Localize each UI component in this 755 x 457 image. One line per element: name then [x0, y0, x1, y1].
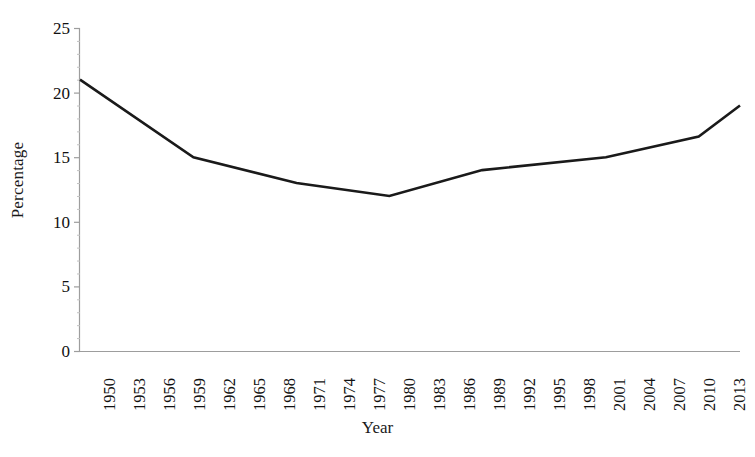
x-axis-tick-label: 1953	[132, 378, 149, 411]
x-axis-tick-label: 1959	[192, 378, 209, 411]
x-axis-tick-label: 2007	[672, 378, 689, 411]
x-axis-tick-labels: 1950195319561959196219651968197119741977…	[0, 0, 755, 457]
x-axis-title: Year	[0, 418, 755, 438]
x-axis-tick-label: 1968	[282, 378, 299, 411]
x-axis-tick-label: 2004	[642, 378, 659, 411]
x-axis-tick-label: 1980	[402, 378, 419, 411]
x-axis-tick-label: 1950	[102, 378, 119, 411]
x-axis-tick-label: 1995	[552, 378, 569, 411]
x-axis-tick-label: 1956	[162, 378, 179, 411]
x-axis-tick-label: 1965	[252, 378, 269, 411]
x-axis-tick-label: 2013	[732, 378, 749, 411]
x-axis-tick-label: 1989	[492, 378, 509, 411]
x-axis-tick-label: 1974	[342, 378, 359, 411]
x-axis-tick-label: 1998	[582, 378, 599, 411]
x-axis-tick-label: 1971	[312, 378, 329, 411]
x-axis-tick-label: 1977	[372, 378, 389, 411]
x-axis-tick-label: 1962	[222, 378, 239, 411]
x-axis-tick-label: 1986	[462, 378, 479, 411]
x-axis-tick-label: 1983	[432, 378, 449, 411]
x-axis-tick-label: 2010	[702, 378, 719, 411]
x-axis-tick-label: 2001	[612, 378, 629, 411]
chart-figure: Percentage 2520151050 195019531956195919…	[0, 0, 755, 457]
x-axis-tick-label: 1992	[522, 378, 539, 411]
